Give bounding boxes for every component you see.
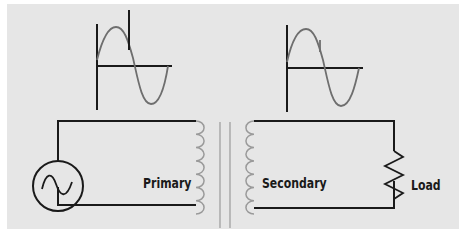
secondary-coil bbox=[246, 121, 254, 214]
transformer-diagram bbox=[0, 0, 468, 247]
secondary-circuit bbox=[254, 121, 403, 208]
primary-circuit bbox=[33, 121, 196, 211]
primary-coil bbox=[196, 121, 204, 214]
secondary-label: Secondary bbox=[262, 175, 327, 191]
primary-label: Primary bbox=[143, 175, 191, 191]
secondary-waveform bbox=[287, 25, 363, 112]
load-label: Load bbox=[411, 177, 441, 193]
iron-core bbox=[220, 122, 230, 228]
primary-waveform bbox=[97, 10, 172, 110]
